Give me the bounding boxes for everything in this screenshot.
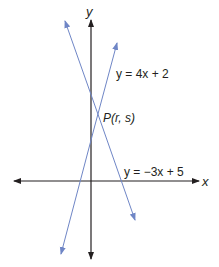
line-neg3x-plus-5 (65, 21, 100, 120)
line-4x-plus-2-lower (61, 125, 95, 254)
coordinate-plane (0, 0, 219, 267)
equation-label-4x-plus-2: y = 4x + 2 (116, 68, 169, 80)
y-axis-label: y (86, 5, 93, 18)
x-axis-label: x (202, 175, 209, 188)
intersection-label: P(r, s) (103, 112, 135, 124)
equation-label-neg3x-plus-5: y = −3x + 5 (124, 166, 184, 178)
